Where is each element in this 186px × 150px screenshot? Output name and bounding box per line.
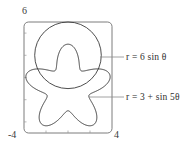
x-axis-max-label: 4 (114, 130, 119, 140)
callout-leader-lines (89, 57, 124, 97)
curve-rose (26, 44, 110, 126)
y-axis-max-label: 6 (22, 6, 27, 16)
equation-label-circle: r = 6 sin θ (126, 53, 167, 63)
plot-frame (24, 22, 112, 133)
x-axis-min-label: -4 (8, 130, 16, 140)
curve-circle-6sin-theta (35, 22, 102, 89)
equation-label-rose: r = 3 + sin 5θ (126, 93, 180, 103)
polar-plot-figure: 6 -4 4 r = 6 sin θ r = 3 + sin 5θ (0, 0, 186, 150)
plot-canvas (0, 0, 186, 150)
